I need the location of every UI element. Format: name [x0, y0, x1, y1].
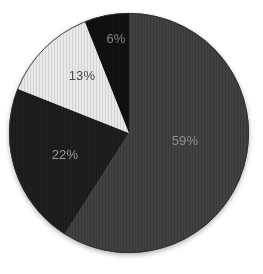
slice-label-6: 6%	[106, 31, 125, 46]
slice-label-22: 22%	[52, 147, 79, 162]
slice-label-13: 13%	[69, 68, 96, 83]
chart-area: 59%22%13%6%	[0, 0, 263, 274]
pie-slices-group: 59%22%13%6%	[9, 13, 249, 253]
pie-texture-overlay	[9, 13, 249, 253]
pie-chart: 59%22%13%6%	[0, 0, 263, 274]
slice-label-59: 59%	[172, 133, 199, 148]
